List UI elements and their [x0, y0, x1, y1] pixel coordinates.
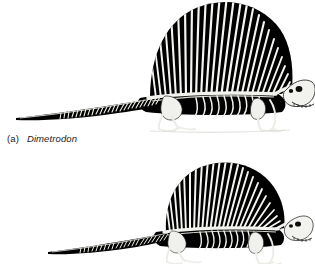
figure-caption: (a) Dimetrodon	[7, 133, 77, 144]
figure-page: (a) Dimetrodon	[0, 0, 315, 264]
dimetrodon-skeleton-lower	[34, 160, 315, 264]
caption-genus-name: Dimetrodon	[27, 133, 77, 144]
caption-letter: (a)	[7, 133, 19, 144]
dorsal-sail-upper	[135, 0, 292, 100]
skeleton-illustration-lower	[34, 160, 315, 264]
skeleton-illustration-upper	[0, 0, 315, 134]
orbit-upper	[296, 86, 303, 92]
orbit-lower	[295, 221, 301, 226]
dimetrodon-skeleton-upper	[0, 0, 315, 134]
tail-lower	[48, 231, 172, 254]
dorsal-sail-lower	[155, 160, 284, 235]
